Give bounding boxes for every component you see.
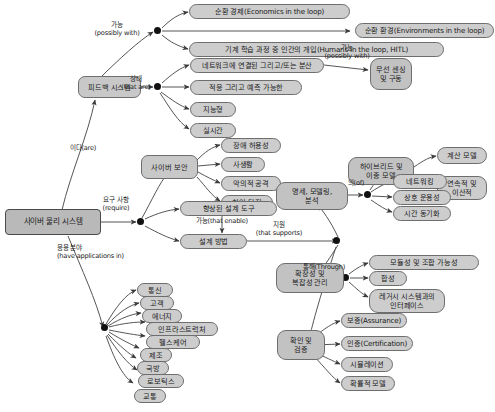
node-computation-model[interactable]: 계산 모델 xyxy=(437,147,487,164)
edge-label-require: 요구 사항 (require) xyxy=(88,197,144,213)
node-time-synchronization[interactable]: 시간 동기화 xyxy=(393,206,451,221)
node-realtime[interactable]: 실시간 xyxy=(190,123,236,138)
node-app-infrastructure[interactable]: 인프라스트럭처 xyxy=(146,322,218,336)
node-networked-distributed[interactable]: 네트워크에 연결된 그리고/또는 분산 xyxy=(190,58,324,73)
node-fault-tolerance[interactable]: 장애 허용성 xyxy=(221,138,281,153)
node-adaptive-predictable[interactable]: 적응 그리고 예측 가능한 xyxy=(190,80,302,95)
node-spec-modeling-analysis[interactable]: 명세, 모델링, 분석 xyxy=(276,182,348,210)
edge-label-have-applications-in: 응용 분야 (have applications in) xyxy=(57,245,157,261)
edge-label-possibly-with: 가능 (possibly with) xyxy=(82,22,152,38)
edge-label-possibly-with-wireless: 가능 (possibly with) xyxy=(318,45,376,61)
node-composition[interactable]: 합성 xyxy=(369,271,407,286)
node-networking[interactable]: 네트워킹 xyxy=(393,174,447,189)
node-probabilistic-model[interactable]: 확률적 모델 xyxy=(341,376,395,391)
node-economics-in-the-loop[interactable]: 순환 경제(Economics in the loop) xyxy=(189,4,350,19)
junction-requirements xyxy=(137,218,144,225)
node-modularity-composability[interactable]: 모듈성 및 조합 가능성 xyxy=(369,255,479,270)
node-wireless-sensing-actuation[interactable]: 무선 센싱 및 구동 xyxy=(370,58,412,90)
node-app-energy[interactable]: 에너지 xyxy=(142,309,182,323)
node-privacy[interactable]: 사생활 xyxy=(221,157,265,172)
node-app-defense[interactable]: 국방 xyxy=(137,361,169,375)
edge-label-of: 의(of) xyxy=(343,180,369,188)
edge-label-through: 통해(Through) xyxy=(300,264,348,272)
node-improved-design-tools[interactable]: 향상된 설계 도구 xyxy=(180,201,277,216)
node-app-transportation[interactable]: 교통 xyxy=(134,389,166,403)
node-validation-verification[interactable]: 확인 및 검증 xyxy=(277,330,325,360)
edge-label-that-supports: 지원 (that supports) xyxy=(244,222,314,238)
node-app-communication[interactable]: 통신 xyxy=(137,283,173,297)
junction-of xyxy=(364,191,371,198)
node-assurance[interactable]: 보증(Assurance) xyxy=(341,313,407,328)
node-app-robotics[interactable]: 로보틱스 xyxy=(138,374,184,388)
node-app-manufacturing[interactable]: 제조 xyxy=(140,348,172,362)
junction-loop xyxy=(154,27,161,34)
edge-label-is-are: 이다(are) xyxy=(57,145,109,153)
node-simulation[interactable]: 시뮬레이션 xyxy=(341,357,393,372)
node-intelligent[interactable]: 지능형 xyxy=(190,102,236,117)
edge-label-that-are: 상태 (that are) xyxy=(115,76,157,92)
node-certification[interactable]: 인증(Certification) xyxy=(341,336,413,351)
node-app-customer[interactable]: 고객 xyxy=(140,296,174,310)
node-malicious-attack[interactable]: 악의적 공격 xyxy=(221,176,281,191)
node-design-methods[interactable]: 설계 방법 xyxy=(180,234,247,249)
node-legacy-system-interface[interactable]: 레거시 시스템과의 인터페이스 xyxy=(369,289,445,313)
node-app-healthcare[interactable]: 헬스케어 xyxy=(146,335,200,349)
node-cyber-security[interactable]: 사이버 보안 xyxy=(141,155,198,179)
junction-supports xyxy=(333,237,340,244)
node-environments-in-the-loop[interactable]: 순환 환경(Environments in the loop) xyxy=(355,23,494,38)
node-humans-in-the-loop[interactable]: 기계 학습 과정 중 인간의 개입(Humans in the loop, HI… xyxy=(189,42,444,57)
node-interoperability[interactable]: 상호 운용성 xyxy=(393,190,451,205)
node-root-cyber-physical-system[interactable]: 사이버 물리 시스템 xyxy=(5,209,101,235)
diagram-canvas: 사이버 물리 시스템 피드백 시스템 순환 경제(Economics in th… xyxy=(0,0,495,412)
junction-applications xyxy=(101,324,108,331)
